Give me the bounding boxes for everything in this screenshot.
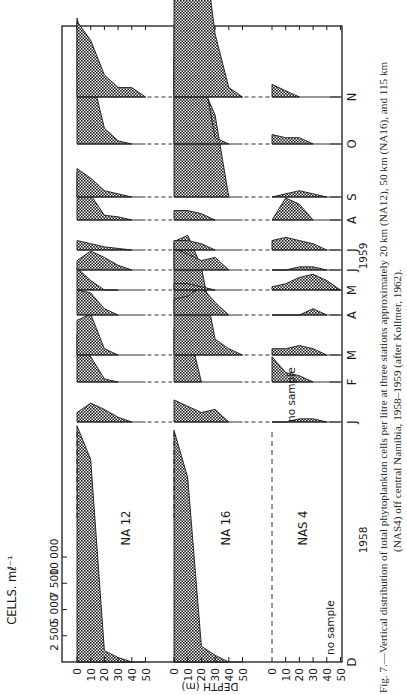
depth-profile bbox=[77, 169, 132, 197]
month-label: N bbox=[345, 93, 359, 102]
depth-tick-label: 10 bbox=[280, 668, 292, 681]
depth-profile bbox=[272, 84, 299, 97]
month-label: S bbox=[345, 193, 359, 200]
depth-profile bbox=[272, 419, 327, 422]
depth-profile bbox=[272, 274, 341, 290]
caption-line-2: (NAS4) off central Namibia, 1958–1959 (a… bbox=[391, 269, 403, 552]
year-1958-label: 1958 bbox=[357, 527, 369, 554]
month-label: A bbox=[345, 311, 359, 319]
cells-axis-label: CELLS. mℓ⁻¹ bbox=[5, 555, 19, 624]
month-label: J bbox=[345, 420, 359, 424]
depth-tick-label: 40 bbox=[223, 668, 235, 681]
caption-line-1: Fig. 7.—Vertical distribution of total p… bbox=[377, 62, 389, 693]
depth-profile bbox=[174, 241, 215, 250]
depth-tick-label: 10 bbox=[182, 668, 194, 681]
depth-tick-label: 20 bbox=[98, 668, 110, 681]
depth-profile bbox=[77, 290, 118, 315]
cells-tick-label: 10 000 bbox=[48, 539, 60, 576]
month-label: O bbox=[345, 139, 359, 148]
month-label: M bbox=[345, 285, 359, 295]
depth-tick-label: 0 bbox=[71, 668, 83, 675]
depth-tick-label: 10 bbox=[85, 668, 97, 681]
depth-profile bbox=[77, 21, 146, 97]
depth-profile bbox=[174, 0, 243, 97]
no-sample-annotation: no sample bbox=[324, 600, 336, 655]
rotated-chart: 2 5005 0007 50010 000 010203040500102030… bbox=[0, 0, 407, 695]
depth-profile bbox=[272, 198, 313, 220]
depth-profile bbox=[272, 309, 327, 315]
depth-profile bbox=[272, 267, 327, 270]
station-label: NAS 4 bbox=[296, 511, 310, 546]
depth-profile bbox=[174, 211, 215, 220]
figure-caption: Fig. 7.—Vertical distribution of total p… bbox=[375, 0, 405, 695]
profiles bbox=[77, 0, 341, 662]
depth-profile bbox=[77, 251, 132, 270]
depth-tick-label: 30 bbox=[209, 668, 221, 681]
depth-profile bbox=[272, 346, 327, 355]
month-label: A bbox=[345, 216, 359, 224]
depth-tick-label: 50 bbox=[140, 668, 152, 681]
no-sample-annotation: no sample bbox=[285, 367, 297, 422]
month-label: M bbox=[345, 350, 359, 360]
station-label: NA 16 bbox=[219, 511, 233, 546]
figure: 2 5005 0007 50010 000 010203040500102030… bbox=[0, 0, 407, 695]
depth-tick-label: 40 bbox=[321, 668, 333, 681]
depth-profile bbox=[272, 191, 327, 197]
depth-profile bbox=[272, 135, 313, 144]
depth-axis-label: DEPTH (m) bbox=[181, 681, 238, 693]
month-label: F bbox=[345, 379, 359, 386]
depth-tick-label: 0 bbox=[266, 668, 278, 675]
depth-profile bbox=[77, 241, 132, 250]
year-1959-label: 1959 bbox=[357, 243, 369, 270]
depth-tick-label: 50 bbox=[335, 668, 347, 681]
depth-tick-label: 40 bbox=[126, 668, 138, 681]
station-label: NA 12 bbox=[119, 511, 133, 546]
month-label: D bbox=[345, 657, 359, 666]
cells-ticks: 2 5005 0007 50010 000 bbox=[48, 539, 67, 651]
depth-profile bbox=[174, 248, 229, 270]
depth-tick-label: 20 bbox=[195, 668, 207, 681]
depth-profile bbox=[272, 237, 327, 250]
depth-tick-label: 30 bbox=[112, 668, 124, 681]
depth-profile bbox=[77, 268, 118, 290]
depth-tick-label: 0 bbox=[168, 668, 180, 675]
depth-tick-label: 50 bbox=[237, 668, 249, 681]
depth-profile bbox=[77, 403, 132, 422]
depth-profile bbox=[174, 400, 229, 422]
depth-profile bbox=[77, 314, 118, 355]
depth-tick-label: 20 bbox=[293, 668, 305, 681]
depth-tick-label: 30 bbox=[307, 668, 319, 681]
